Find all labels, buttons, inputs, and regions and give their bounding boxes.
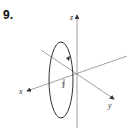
radius-label: 1 <box>61 81 65 90</box>
y-axis <box>41 50 114 99</box>
direction-arrow-icon <box>66 56 70 61</box>
x-axis-label: x <box>18 87 23 96</box>
3d-axes-diagram: z y x 1 <box>0 0 131 134</box>
z-axis-label: z <box>69 13 74 22</box>
y-axis-label: y <box>107 101 112 110</box>
circle-curve <box>49 42 73 118</box>
